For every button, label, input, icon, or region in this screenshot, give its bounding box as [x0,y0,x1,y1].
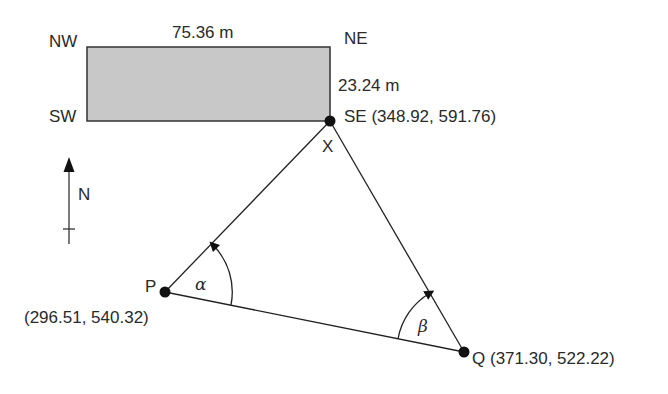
line-x-p [165,121,330,292]
diagram-canvas [0,0,668,394]
corner-label-sw: SW [49,108,76,125]
height-label: 23.24 m [338,77,399,94]
angle-alpha-arc [213,245,232,305]
corner-label-nw: NW [49,33,77,50]
point-x-label: X [322,138,333,155]
point-se-label: SE (348.92, 591.76) [344,108,496,125]
north-arrow-icon [64,157,75,172]
point-q-marker [459,347,470,358]
line-x-q [330,121,464,352]
angle-alpha-label: α [195,276,206,293]
point-se-name: SE [344,107,367,126]
building-rectangle [87,47,330,121]
point-p-marker [160,287,171,298]
corner-label-ne: NE [344,30,368,47]
point-q-coords: (371.30, 522.22) [490,349,615,368]
point-se-coords: (348.92, 591.76) [371,107,496,126]
point-q-name: Q [472,349,485,368]
angle-beta-label: β [418,318,428,335]
point-p-coords: (296.51, 540.32) [24,309,149,326]
north-label: N [78,186,90,203]
point-p-label: P [145,278,156,295]
point-se-marker [325,116,336,127]
point-q-label: Q (371.30, 522.22) [472,350,615,367]
width-label: 75.36 m [172,24,233,41]
